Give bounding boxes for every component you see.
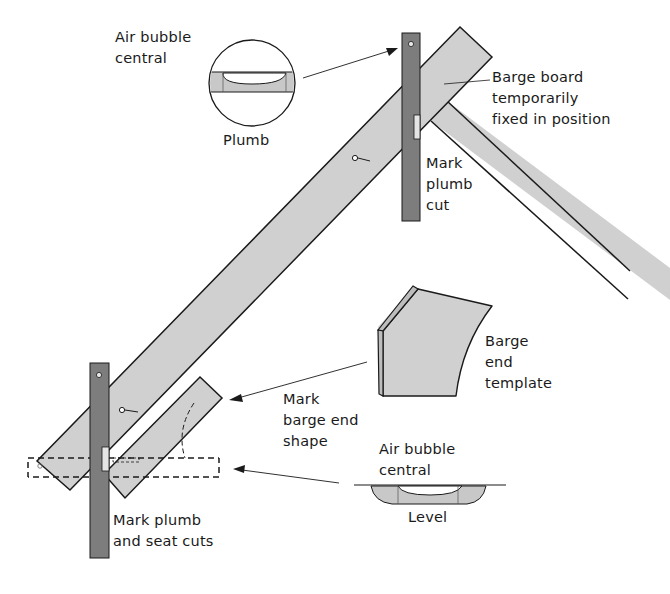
level-bubble-detail — [354, 485, 506, 504]
barge-end-template — [378, 286, 497, 396]
label-plumb: Plumb — [223, 130, 269, 151]
label-air-bubble-central-top: Air bubble central — [115, 27, 191, 69]
arrow-head-icon — [386, 48, 398, 56]
label-level: Level — [408, 507, 447, 528]
label-barge-end-template: Barge end template — [485, 331, 552, 394]
plumb-level-top — [402, 33, 420, 221]
label-mark-barge-end-shape: Mark barge end shape — [283, 389, 359, 452]
label-mark-plumb-cut: Mark plumb cut — [426, 153, 473, 216]
arrow-head-icon — [233, 465, 245, 473]
plumb-level-bottom — [90, 363, 109, 558]
plumb-bubble-magnifier — [205, 40, 299, 126]
label-barge-board: Barge board temporarily fixed in positio… — [492, 67, 611, 130]
arrow-head-icon — [229, 394, 243, 402]
label-air-bubble-central-bottom: Air bubble central — [379, 439, 455, 481]
label-mark-plumb-and-seat-cuts: Mark plumb and seat cuts — [113, 510, 214, 552]
